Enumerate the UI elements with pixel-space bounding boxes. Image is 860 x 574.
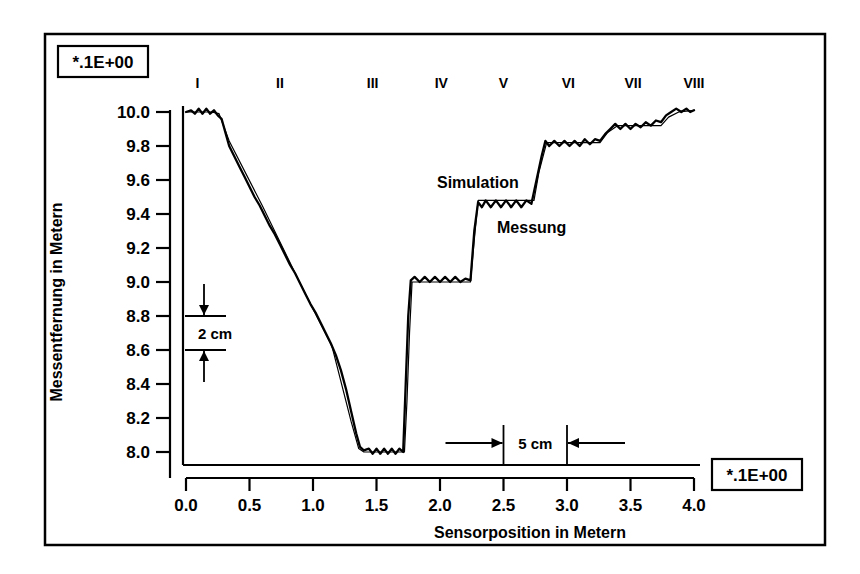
x-axis-tick-label: 0.5: [238, 496, 262, 515]
y-axis-tick-label: 10.0: [117, 103, 150, 122]
section-marker-label: VI: [562, 75, 575, 91]
y-axis-tick-label: 9.4: [126, 205, 150, 224]
figure-container: *.1E+00*.1E+008.08.28.48.68.89.09.29.49.…: [0, 0, 860, 574]
exponent-box-top-label: *.1E+00: [73, 53, 134, 72]
section-marker-label: III: [367, 75, 379, 91]
y-axis-tick-label: 8.0: [126, 443, 150, 462]
section-marker-label: II: [276, 75, 284, 91]
figure-frame: [45, 34, 825, 545]
y-axis-tick-label: 9.8: [126, 137, 150, 156]
exponent-box-bottom-label: *.1E+00: [727, 466, 788, 485]
y-axis-tick-label: 9.2: [126, 239, 150, 258]
x-axis-tick-label: 1.0: [301, 496, 325, 515]
curve-label-simulation: Simulation: [437, 174, 519, 191]
x-axis-tick-label: 0.0: [174, 496, 198, 515]
x-axis-tick-label: 2.5: [492, 496, 516, 515]
x-axis-tick-label: 3.0: [555, 496, 579, 515]
y-axis-tick-label: 8.4: [126, 375, 150, 394]
y-axis-tick-label: 8.8: [126, 307, 150, 326]
y-axis-tick-label: 9.0: [126, 273, 150, 292]
section-marker-label: VII: [624, 75, 641, 91]
x-axis-tick-label: 3.5: [619, 496, 643, 515]
y-axis-title: Messentfernung in Metern: [48, 202, 65, 401]
x-axis-title: Sensorposition in Metern: [434, 524, 626, 541]
x-axis-tick-label: 4.0: [682, 496, 706, 515]
section-marker-label: V: [499, 75, 509, 91]
section-marker-label: IV: [435, 75, 449, 91]
chart-svg: *.1E+00*.1E+008.08.28.48.68.89.09.29.49.…: [0, 0, 860, 574]
section-marker-label: I: [195, 75, 199, 91]
y-axis-tick-label: 9.6: [126, 171, 150, 190]
section-marker-label: VIII: [683, 75, 704, 91]
y-axis-tick-label: 8.6: [126, 341, 150, 360]
y-axis-tick-label: 8.2: [126, 409, 150, 428]
exponent-box-top: *.1E+00: [58, 46, 148, 77]
x-axis-tick-label: 1.5: [365, 496, 389, 515]
scale-bar-horizontal-label: 5 cm: [518, 435, 552, 452]
curve-label-messung: Messung: [497, 219, 566, 236]
exponent-box-bottom: *.1E+00: [712, 459, 802, 490]
x-axis-tick-label: 2.0: [428, 496, 452, 515]
scale-bar-vertical-label: 2 cm: [198, 325, 232, 342]
